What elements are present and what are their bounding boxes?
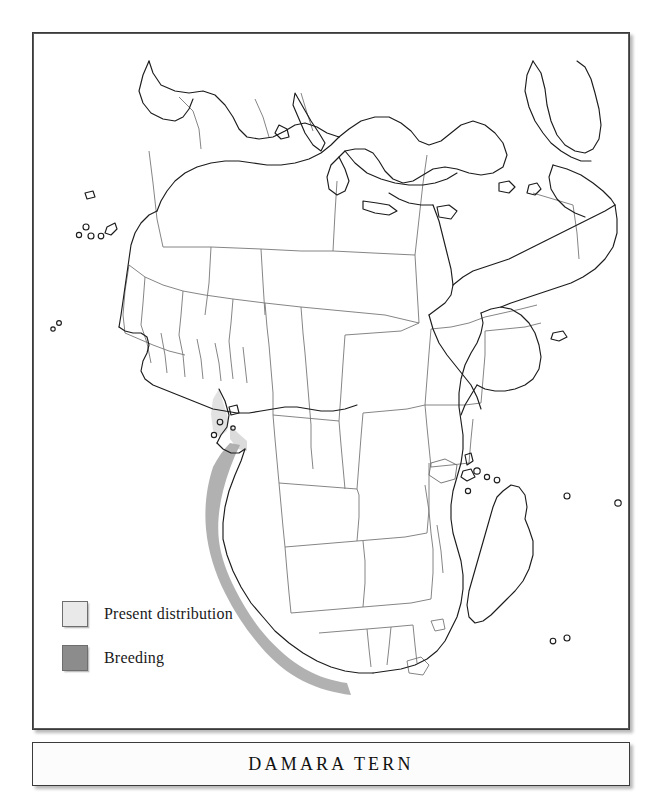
page-title: DAMARA TERN — [248, 754, 413, 775]
coastlines — [51, 61, 621, 673]
map-legend: Present distribution Breeding — [32, 592, 282, 680]
title-bar: DAMARA TERN — [32, 742, 630, 786]
country-borders — [123, 93, 579, 675]
legend-label-present-distribution: Present distribution — [104, 605, 233, 623]
present-distribution-swatch — [62, 601, 88, 627]
map-page: Present distribution Breeding DAMARA TER… — [0, 0, 661, 798]
legend-item-breeding: Breeding — [32, 636, 282, 680]
breeding-swatch — [62, 645, 88, 671]
legend-item-present-distribution: Present distribution — [32, 592, 282, 636]
legend-label-breeding: Breeding — [104, 649, 164, 667]
present-distribution-band — [211, 389, 247, 451]
